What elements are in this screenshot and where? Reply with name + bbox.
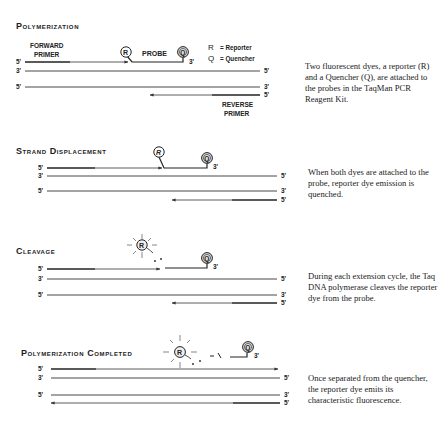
five-prime-label: 5' [16, 83, 22, 90]
probe-fragment: Q 3' [230, 342, 260, 359]
three-prime-label: 3' [281, 291, 287, 298]
five-prime-label: 5' [264, 67, 270, 74]
quencher-symbol: Q [204, 155, 209, 163]
three-prime-label: 3' [16, 67, 22, 74]
forward-primer-label-2: PRIMER [34, 51, 60, 58]
probe-fragment: Q 3' [165, 253, 219, 270]
quencher-symbol: Q [245, 344, 250, 352]
reporter-symbol: R [123, 49, 128, 56]
five-prime-label: 5' [38, 391, 44, 398]
five-prime-label: 5' [281, 196, 287, 203]
three-prime-label: 3' [38, 275, 44, 282]
three-prime-label: 3' [254, 352, 260, 359]
five-prime-label: 5' [38, 164, 44, 171]
three-prime-label: 3' [38, 374, 44, 381]
probe-label: PROBE [142, 50, 167, 57]
quencher-symbol: Q [204, 255, 209, 263]
five-prime-label: 5' [38, 187, 44, 194]
reporter-symbol: R [177, 349, 182, 356]
step-strand-displacement: Strand Displacement 5' R Q 3' 3' 5' 5' 3… [16, 146, 287, 203]
reporter-symbol: R [156, 149, 161, 156]
three-prime-label: 3' [189, 58, 195, 65]
five-prime-label: 5' [281, 172, 287, 179]
three-prime-label: 3' [264, 83, 270, 90]
three-prime-label: 3' [213, 263, 219, 270]
taqman-diagram: Polymerization FORWARD PRIMER 5' R Q 3' … [0, 0, 443, 421]
step-title: Strand Displacement [16, 146, 106, 156]
step-description-polymerization: Two fluorescent dyes, a reporter (R) and… [305, 61, 433, 105]
five-prime-label: 5' [38, 365, 44, 372]
three-prime-label: 3' [284, 391, 290, 398]
legend-q-label: = Quencher [220, 55, 255, 63]
five-prime-label: 5' [38, 265, 44, 272]
five-prime-label: 5' [16, 58, 22, 65]
legend: R = Reporter Q = Quencher [208, 43, 255, 63]
reverse-primer-label: REVERSE [222, 101, 254, 108]
three-prime-label: 3' [281, 187, 287, 194]
legend-r-label: = Reporter [220, 44, 252, 52]
five-prime-label: 5' [38, 291, 44, 298]
probe: R Q 3' PROBE [121, 47, 195, 65]
probe: R Q 3' [154, 147, 219, 170]
five-prime-label: 5' [284, 399, 290, 406]
reverse-primer-label-2: PRIMER [224, 110, 250, 117]
step-polymerization: Polymerization FORWARD PRIMER 5' R Q 3' … [16, 21, 270, 117]
step-title: Polymerization Completed [21, 348, 132, 358]
step-description-cleavage: During each extension cycle, the Taq DNA… [308, 271, 438, 304]
step-title: Cleavage [16, 246, 55, 256]
five-prime-label: 5' [281, 275, 287, 282]
forward-primer-label: FORWARD [30, 42, 64, 49]
three-prime-label: 3' [38, 172, 44, 179]
three-prime-label: 3' [213, 163, 219, 170]
step-description-strand-displacement: When both dyes are attached to the probe… [308, 167, 438, 200]
legend-r-symbol: R [208, 43, 214, 52]
five-prime-label: 5' [264, 91, 270, 98]
five-prime-label: 5' [284, 374, 290, 381]
legend-q-symbol: Q [208, 54, 214, 63]
step-title: Polymerization [16, 21, 79, 31]
reporter-symbol: R [139, 242, 144, 249]
step-cleavage: Cleavage R 5' Q 3' 3' 5' 5' 3 [16, 234, 287, 306]
five-prime-label: 5' [281, 299, 287, 306]
quencher-symbol: Q [180, 49, 185, 57]
step-polymerization-completed: Polymerization Completed R Q 3' 5' 3' [21, 335, 290, 406]
step-description-polymerization-completed: Once separated from the quencher, the re… [308, 373, 438, 406]
